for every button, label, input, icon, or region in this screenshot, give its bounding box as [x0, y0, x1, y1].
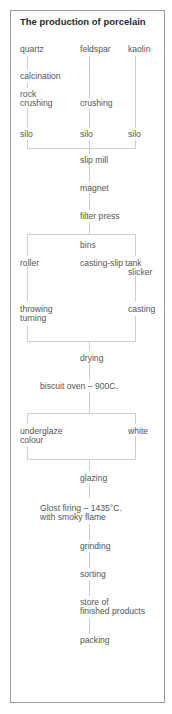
connector-rock-silo	[27, 108, 28, 128]
node-packing: packing	[80, 636, 110, 646]
node-glazing: glazing	[80, 474, 107, 484]
silo-merge-line	[27, 148, 136, 149]
bins-box-right-mid	[135, 276, 136, 302]
node-filter-press: filter press	[80, 212, 120, 222]
node-quartz: quartz	[20, 45, 44, 55]
node-white: white	[128, 427, 148, 437]
connector-silo-left-merge	[27, 140, 28, 148]
node-kaolin: kaolin	[128, 45, 150, 55]
node-sorting: sorting	[80, 570, 106, 580]
bins-box-left-lower	[27, 326, 28, 341]
connector-store-packing	[89, 618, 90, 634]
connector-merge-slipmill	[89, 148, 90, 154]
bins-box-top	[27, 234, 136, 235]
node-silo-right: silo	[128, 130, 141, 140]
connector-crushing-silo	[89, 108, 90, 128]
node-feldspar: feldspar	[80, 45, 111, 55]
node-slicker: slicker	[128, 268, 152, 278]
node-glost-firing-line2: with smoky flame	[40, 513, 106, 523]
node-turning: turning	[20, 314, 46, 324]
connector-filterpress-bins	[89, 222, 90, 234]
node-rock-crushing-line2: crushing	[20, 99, 52, 109]
connector-silo-mid-merge	[89, 140, 90, 148]
underglaze-box-bottom	[27, 459, 136, 460]
connector-underglaze-glazing	[89, 459, 90, 471]
bins-box-right-lower	[135, 316, 136, 341]
node-bins: bins	[80, 241, 96, 251]
connector-biscuit-underglaze	[89, 392, 90, 413]
node-calcination: calcination	[20, 72, 61, 82]
connector-silo-right-merge	[135, 140, 136, 148]
diagram-title: The production of porcelain	[20, 16, 146, 27]
node-grinding: grinding	[80, 542, 111, 552]
bins-box-left-upper	[27, 234, 28, 256]
node-drying: drying	[80, 354, 103, 364]
node-magnet: magnet	[80, 184, 109, 194]
bins-box-bottom	[27, 341, 136, 342]
node-silo-left: silo	[20, 130, 33, 140]
connector-kaolin-silo	[135, 56, 136, 128]
node-silo-mid: silo	[80, 130, 93, 140]
node-casting: casting	[128, 305, 155, 315]
node-biscuit-oven: biscuit oven – 900C.	[40, 382, 118, 392]
connector-feldspar-crushing	[89, 56, 90, 98]
connector-sorting-store	[89, 580, 90, 596]
node-slip-mill: slip mill	[80, 156, 108, 166]
node-store-line2: finished products	[80, 607, 145, 617]
underglaze-box-right-lower	[135, 436, 136, 459]
connector-bins-drying	[89, 341, 90, 351]
underglaze-box-top	[27, 413, 136, 414]
connector-grinding-sorting	[89, 552, 90, 568]
connector-slipmill-magnet	[89, 166, 90, 182]
bins-box-left-mid	[27, 266, 28, 302]
connector-glazing-glost	[89, 484, 90, 498]
node-colour: colour	[20, 436, 43, 446]
underglaze-box-left-lower	[27, 446, 28, 459]
connector-calcination-rock	[27, 82, 28, 88]
connector-glost-grinding	[89, 524, 90, 540]
connector-magnet-filterpress	[89, 194, 90, 210]
underglaze-box-left-upper	[27, 413, 28, 424]
underglaze-box-right-upper	[135, 413, 136, 424]
connector-drying-biscuit	[89, 364, 90, 380]
connector-quartz-calcination	[27, 56, 28, 70]
node-roller: roller	[20, 259, 39, 269]
bins-box-right-upper	[135, 234, 136, 256]
node-crushing: crushing	[80, 99, 112, 109]
